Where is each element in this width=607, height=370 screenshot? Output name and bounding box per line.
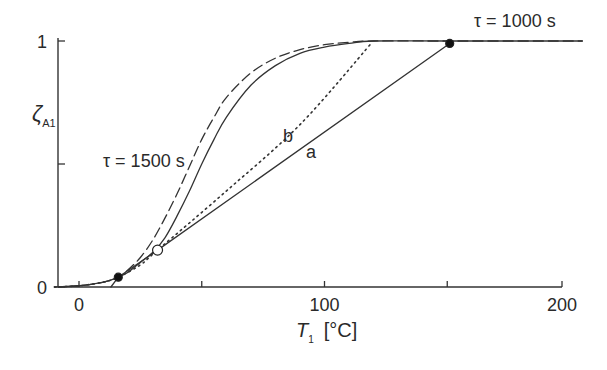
chart: 01 0100200 ζA1 T1[°C] τ = 1000 sτ = 1500…	[0, 0, 607, 370]
x-axis-label-unit: [°C]	[324, 319, 358, 341]
series-line-b	[54, 43, 371, 287]
y-tick-label: 1	[37, 32, 47, 52]
y-axis-label: ζA1	[32, 101, 56, 129]
filled-dot-marker	[446, 39, 454, 47]
y-axis-label-sub: A1	[42, 117, 55, 129]
axes: 01 0100200	[37, 32, 577, 315]
annotation-label: τ = 1000 s	[474, 11, 556, 31]
x-tick-label: 200	[547, 295, 577, 315]
x-axis-label: T1[°C]	[296, 319, 357, 345]
annotation-label: a	[306, 142, 317, 162]
filled-dot-marker	[114, 273, 122, 281]
open-circle-marker	[153, 245, 163, 255]
x-tick-label: 100	[309, 295, 339, 315]
annotations-group: τ = 1000 sτ = 1500 sba	[103, 11, 556, 171]
y-tick-label: 0	[37, 278, 47, 298]
x-axis-label-sub: 1	[308, 334, 314, 345]
y-ticks: 01	[37, 32, 65, 298]
x-ticks: 0100200	[74, 281, 577, 315]
x-tick-label: 0	[74, 295, 84, 315]
annotation-label: b	[283, 126, 293, 146]
annotation-label: τ = 1500 s	[103, 151, 185, 171]
